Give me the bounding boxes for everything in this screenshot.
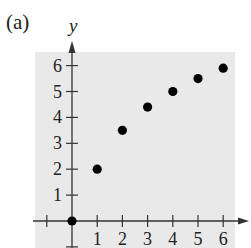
- scatter-chart: 123456123456 y: [0, 0, 251, 248]
- x-tick-label: 3: [143, 229, 152, 248]
- data-point: [193, 74, 202, 83]
- data-point: [67, 216, 76, 225]
- y-tick-label: 6: [53, 56, 62, 76]
- x-tick-label: 2: [118, 229, 127, 248]
- y-tick-label: 2: [53, 159, 62, 179]
- data-point: [168, 87, 177, 96]
- x-tick-label: 4: [168, 229, 177, 248]
- data-point: [143, 102, 152, 111]
- y-tick-label: 3: [53, 133, 62, 153]
- data-point: [219, 64, 228, 73]
- y-tick-label: 1: [53, 185, 62, 205]
- y-axis-arrow-icon: [69, 41, 76, 53]
- y-tick-label: 4: [53, 107, 62, 127]
- data-point: [118, 126, 127, 135]
- x-tick-label: 1: [93, 229, 102, 248]
- y-tick-label: 5: [53, 82, 62, 102]
- x-axis-arrow-icon: [238, 218, 249, 225]
- data-point: [93, 165, 102, 174]
- y-axis-label: y: [67, 15, 78, 36]
- plot-background: [35, 52, 235, 248]
- x-tick-label: 5: [194, 229, 203, 248]
- x-tick-label: 6: [219, 229, 228, 248]
